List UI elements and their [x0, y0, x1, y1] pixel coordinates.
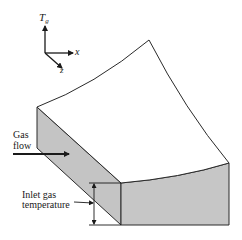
x-axis-label: x — [75, 47, 79, 57]
inlet-leader-arrow — [74, 202, 93, 203]
gas-flow-label-line1: Gas — [13, 130, 29, 140]
z-axis-label: z — [60, 66, 64, 75]
temperature-surface-diagram: Tg x z Gas flow Inlet gas temperature — [0, 0, 242, 240]
tg-axis-label: Tg — [39, 12, 49, 25]
inlet-label-line2: temperature — [22, 200, 70, 210]
gas-flow-label-line2: flow — [13, 141, 31, 151]
axes-icon — [45, 26, 73, 68]
